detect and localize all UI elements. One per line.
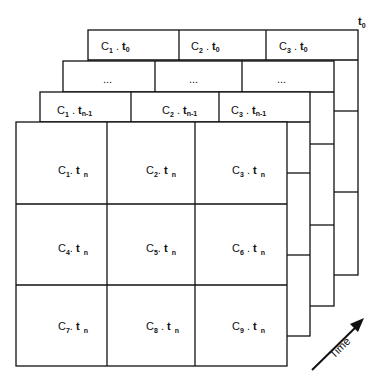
cell-label: C2 . t0 (191, 40, 220, 54)
t0-corner-label: t0 (358, 15, 366, 29)
cell-label: C3 . t0 (279, 40, 308, 54)
cell-label: C1 . t0 (101, 40, 130, 54)
ellipsis-label: ... (103, 73, 112, 85)
time-arrow-icon: Time (312, 318, 364, 370)
ellipsis-label: ... (277, 73, 286, 85)
time-label: Time (327, 335, 352, 360)
layer-tn-front-grid: C1. tn C2. tn C3 . tn C4. tn C5. tn C6 .… (16, 122, 287, 366)
time-layer-diagram: t0 C1 . t0 C2 . t0 C3 . t0 ... ... ... C… (0, 0, 379, 384)
ellipsis-label: ... (189, 73, 198, 85)
